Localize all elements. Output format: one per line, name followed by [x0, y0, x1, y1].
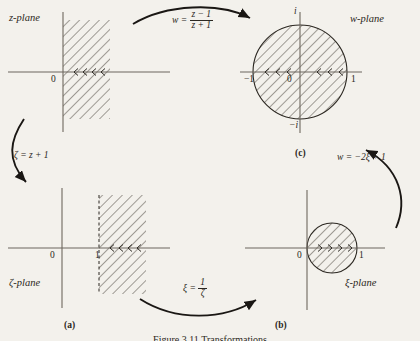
zeta-plane-label: ζ-plane	[9, 277, 40, 288]
w-plane-left-label: −1	[244, 74, 254, 84]
w-plane-top-label: i	[294, 6, 297, 16]
mapping-denominator-xi-of-zeta: ζ	[198, 289, 207, 299]
panel-w-plane	[240, 12, 362, 133]
xi-plane-caption: (b)	[275, 320, 287, 330]
w-plane-right-label: 1	[351, 74, 356, 84]
zeta-plane-origin-label: 0	[50, 250, 55, 260]
z-plane-label: z-plane	[9, 12, 40, 23]
w-plane-label: w-plane	[350, 13, 384, 24]
arrow-zeta-to-xi	[140, 299, 256, 316]
mapping-formula-w-of-xi: w = −2ξ + 1	[337, 152, 386, 162]
figure-graphics	[0, 0, 420, 341]
mapping-formula-xi-of-zeta: ξ = 1 ζ	[183, 278, 207, 299]
zeta-plane-caption: (a)	[64, 320, 75, 330]
mapping-lhs-xi-of-zeta: ξ =	[183, 283, 196, 293]
panel-xi-plane	[245, 190, 385, 310]
zeta-plane-one-label: 1	[95, 250, 100, 260]
conformal-mapping-figure: z-plane 0 w-plane i −i −1 0 1 (c) ζ-plan…	[0, 0, 420, 341]
xi-plane-one-label: 1	[359, 250, 364, 260]
mapping-fraction-xi-of-zeta: 1 ζ	[198, 278, 207, 299]
mapping-denominator-w-of-z: z + 1	[190, 21, 214, 31]
w-plane-bottom-label: −i	[289, 120, 298, 130]
panel-zeta-plane	[8, 188, 170, 308]
mapping-formula-w-of-z: w = z − 1 z + 1	[172, 10, 213, 31]
w-plane-caption: (c)	[295, 148, 306, 158]
z-plane-origin-label: 0	[51, 74, 56, 84]
panel-z-plane	[8, 12, 170, 132]
mapping-lhs-w-of-z: w =	[172, 15, 187, 25]
xi-plane-origin-label: 0	[297, 250, 302, 260]
mapping-formula-zeta-of-z: ζ = z + 1	[14, 150, 49, 160]
mapping-fraction-w-of-z: z − 1 z + 1	[190, 10, 214, 31]
w-plane-origin-label: 0	[287, 74, 292, 84]
xi-plane-label: ξ-plane	[345, 277, 376, 288]
figure-caption: Figure 3.11 Transformations	[0, 334, 420, 341]
